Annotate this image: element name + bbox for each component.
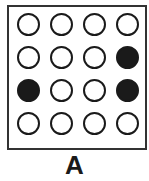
- empty-circle: [83, 79, 106, 102]
- empty-circle: [17, 112, 40, 135]
- empty-circle: [50, 13, 73, 36]
- dot-grid-panel: [7, 5, 147, 150]
- empty-circle: [17, 46, 40, 69]
- filled-circle: [17, 79, 40, 102]
- filled-circle: [116, 79, 139, 102]
- figure-label: A: [0, 150, 149, 180]
- empty-circle: [83, 112, 106, 135]
- empty-circle: [83, 13, 106, 36]
- empty-circle: [50, 46, 73, 69]
- empty-circle: [17, 13, 40, 36]
- empty-circle: [116, 13, 139, 36]
- filled-circle: [116, 46, 139, 69]
- empty-circle: [50, 112, 73, 135]
- dot-grid: [17, 13, 139, 135]
- empty-circle: [83, 46, 106, 69]
- empty-circle: [50, 79, 73, 102]
- empty-circle: [116, 112, 139, 135]
